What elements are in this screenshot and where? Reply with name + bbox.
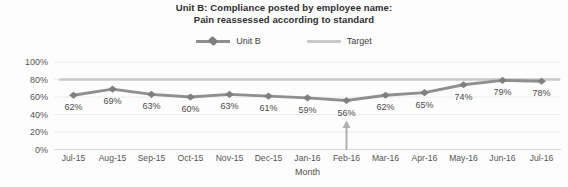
data-point-marker: [342, 97, 351, 104]
y-tick-label: 0%: [35, 145, 48, 155]
x-tick-label: Jul-16: [530, 153, 554, 163]
x-tick-label: Nov-15: [216, 153, 244, 163]
y-tick-label: 40%: [30, 110, 48, 120]
data-point-label: 59%: [298, 105, 316, 115]
x-tick-label: Aug-15: [99, 153, 127, 163]
data-point-marker: [381, 92, 390, 99]
data-point-marker: [459, 81, 468, 88]
data-point-marker: [186, 93, 195, 100]
x-tick-label: Dec-15: [255, 153, 283, 163]
x-axis-title: Month: [54, 167, 561, 177]
up-arrow-icon: [343, 121, 351, 129]
data-point-label: 62%: [64, 102, 82, 112]
data-point-label: 74%: [454, 92, 472, 102]
data-point-marker: [69, 92, 78, 99]
x-tick-label: Mar-16: [372, 153, 399, 163]
plot-area: 0%20%40%60%80%100%Jul-15Aug-15Sep-15Oct-…: [0, 0, 568, 187]
data-point-label: 69%: [103, 96, 121, 106]
data-point-label: 60%: [181, 104, 199, 114]
y-tick-label: 100%: [25, 57, 48, 67]
x-tick-label: Feb-16: [333, 153, 360, 163]
x-tick-label: Sep-15: [138, 153, 166, 163]
data-point-label: 63%: [220, 101, 238, 111]
x-tick-label: Jul-15: [62, 153, 86, 163]
data-point-marker: [108, 86, 117, 93]
data-point-label: 65%: [415, 100, 433, 110]
x-tick-label: Oct-15: [178, 153, 204, 163]
data-point-label: 62%: [376, 102, 394, 112]
x-tick-label: Apr-16: [412, 153, 438, 163]
y-tick-label: 20%: [30, 127, 48, 137]
data-point-label: 63%: [142, 101, 160, 111]
data-point-marker: [420, 89, 429, 96]
chart-canvas: Unit B: Compliance posted by employee na…: [0, 0, 568, 187]
data-point-label: 79%: [493, 87, 511, 97]
data-point-marker: [498, 77, 507, 84]
x-tick-label: Jun-16: [489, 153, 515, 163]
data-point-label: 61%: [259, 103, 277, 113]
data-point-label: 78%: [532, 88, 550, 98]
data-point-label: 56%: [337, 108, 355, 118]
data-point-marker: [303, 94, 312, 101]
x-tick-label: May-16: [449, 153, 478, 163]
data-point-marker: [264, 93, 273, 100]
y-tick-label: 80%: [30, 75, 48, 85]
x-tick-label: Jan-16: [294, 153, 320, 163]
y-tick-label: 60%: [30, 92, 48, 102]
